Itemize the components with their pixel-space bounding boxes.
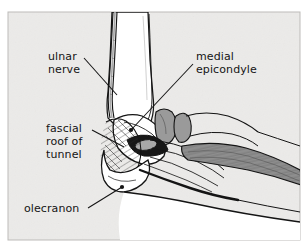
- label-fascial-roof-line-3: tunnel: [46, 148, 82, 161]
- label-ulnar-nerve-line-2: nerve: [48, 63, 80, 76]
- label-olecranon: olecranon: [24, 202, 79, 215]
- label-ulnar-nerve-line-1: ulnar: [48, 50, 77, 63]
- label-fascial-roof-of-tunnel: fascial roof of tunnel: [46, 122, 86, 161]
- leader-dot-medial-epicondyle: [129, 128, 133, 132]
- label-fascial-roof-line-2: roof of: [46, 135, 83, 148]
- label-ulnar-nerve: ulnar nerve: [48, 50, 80, 76]
- label-olecranon-line-1: olecranon: [24, 202, 79, 215]
- anatomy-figure: ulnar nerve medial epicondyle fascial ro…: [0, 0, 308, 248]
- anatomy-illustration-svg: ulnar nerve medial epicondyle fascial ro…: [0, 0, 308, 248]
- label-medial-epicondyle-line-2: epicondyle: [196, 63, 257, 76]
- label-medial-epicondyle-line-1: medial: [196, 50, 234, 63]
- leader-dot-olecranon: [120, 185, 124, 189]
- label-fascial-roof-line-1: fascial: [46, 122, 82, 135]
